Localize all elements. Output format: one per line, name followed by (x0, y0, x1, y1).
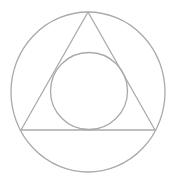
outer-circle (11, 12, 165, 172)
inscribed-triangle (21, 12, 155, 130)
geometric-diagram (0, 0, 175, 183)
inner-circle (51, 53, 128, 130)
